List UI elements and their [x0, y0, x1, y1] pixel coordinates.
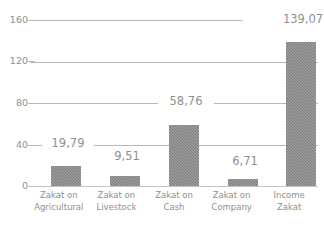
x-axis-label-zakat-on-agricultural: Zakat on Agricultural [30, 190, 88, 226]
y-axis-tick-label-120: 120 [2, 56, 28, 66]
x-axis-label-line-1: Income [274, 190, 305, 200]
bar-income-zakat[interactable] [286, 42, 316, 186]
bar-zakat-on-agricultural[interactable] [51, 166, 81, 187]
x-axis-label-line-1: Zakat on [40, 190, 78, 200]
x-axis-label-line-1: Zakat on [213, 190, 251, 200]
data-label-zakat-on-cash: 58,76 [158, 96, 214, 108]
x-axis-label-income-zakat: Income Zakat [260, 190, 318, 226]
x-axis-label-line-2: Zakat [260, 202, 318, 214]
bar-zakat-on-company[interactable] [228, 179, 258, 186]
x-axis-label-zakat-on-cash: Zakat on Cash [145, 190, 203, 226]
x-axis-label-zakat-on-livestock: Zakat on Livestock [88, 190, 146, 226]
y-axis-tick-label-80: 80 [2, 98, 28, 108]
x-axis-label-line-1: Zakat on [98, 190, 136, 200]
bar-zakat-on-livestock[interactable] [110, 176, 140, 186]
y-axis-tick-label-160: 160 [2, 15, 28, 25]
data-label-zakat-on-company: 6,71 [222, 156, 268, 168]
y-axis-tick-label-40: 40 [2, 140, 28, 150]
axis-baseline-0 [30, 186, 318, 187]
data-label-income-zakat: 139,07 [272, 14, 324, 26]
x-axis-label-line-2: Company [203, 202, 261, 214]
plot-area: 19,79 9,51 58,76 6,71 139,07 [30, 20, 318, 186]
x-axis-label-line-2: Cash [145, 202, 203, 214]
x-axis-label-line-2: Agricultural [30, 202, 88, 214]
data-label-zakat-on-agricultural: 19,79 [42, 138, 94, 150]
bar-chart: 160 120 80 40 0 19,79 9,51 58,76 6,71 13… [0, 0, 324, 228]
x-axis-category-labels: Zakat on Agricultural Zakat on Livestock… [30, 190, 318, 226]
bar-zakat-on-cash[interactable] [169, 125, 199, 186]
data-label-zakat-on-livestock: 9,51 [103, 151, 151, 163]
x-axis-label-line-2: Livestock [88, 202, 146, 214]
x-axis-label-line-1: Zakat on [155, 190, 193, 200]
y-axis-tick-label-0: 0 [2, 181, 28, 191]
x-axis-label-zakat-on-company: Zakat on Company [203, 190, 261, 226]
